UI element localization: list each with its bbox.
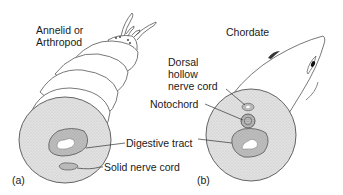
panel-label-b: (b): [197, 174, 210, 186]
chordate-notochord: [241, 114, 255, 128]
label-dorsal-hollow-nerve-cord: Dorsal hollow nerve cord: [168, 56, 218, 92]
label-digestive-tract: Digestive tract: [126, 137, 193, 149]
label-notochord: Notochord: [150, 98, 198, 110]
jaw-line: [306, 82, 318, 100]
title-annelid-arthropod: Annelid or Arthropod: [36, 24, 83, 48]
label-solid-nerve-cord: Solid nerve cord: [104, 161, 180, 173]
panel-label-a: (a): [12, 174, 25, 186]
title-chordate: Chordate: [226, 26, 269, 38]
annelid-solid-nerve-cord: [59, 163, 78, 170]
